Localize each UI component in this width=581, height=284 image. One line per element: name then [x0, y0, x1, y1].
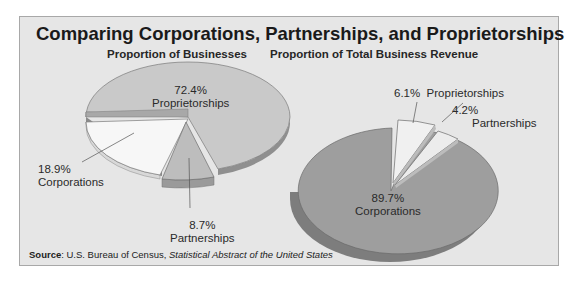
category-name: Corporations	[38, 176, 104, 189]
source-publication: Statistical Abstract of the United State…	[169, 249, 333, 260]
pie-charts-graphic	[20, 17, 560, 267]
left-label-proprietorships: 72.4% Proprietorships	[152, 84, 229, 110]
percent-value: 89.7%	[355, 192, 421, 205]
chart-panel: Comparing Corporations, Partnerships, an…	[19, 16, 559, 266]
right-label-corporations: 89.7% Corporations	[355, 192, 421, 218]
category-name: Corporations	[355, 205, 421, 218]
category-name: Proprietorships	[427, 87, 504, 99]
percent-value: 8.7%	[170, 219, 235, 232]
source-note: Source: U.S. Bureau of Census, Statistic…	[29, 249, 333, 260]
source-label: Source	[29, 249, 61, 260]
percent-value: 4.2%	[452, 104, 537, 117]
percent-value: 18.9%	[38, 163, 104, 176]
source-text: : U.S. Bureau of Census,	[61, 249, 169, 260]
category-name: Proprietorships	[152, 97, 229, 110]
percent-value: 6.1%	[394, 87, 420, 99]
category-name: Partnerships	[170, 232, 235, 245]
category-name: Partnerships	[472, 117, 537, 130]
right-label-partnerships: 4.2% Partnerships	[452, 104, 537, 130]
left-label-corporations: 18.9% Corporations	[38, 163, 104, 189]
left-label-partnerships: 8.7% Partnerships	[170, 219, 235, 245]
percent-value: 72.4%	[152, 84, 229, 97]
right-label-proprietorships: 6.1% Proprietorships	[394, 87, 504, 100]
